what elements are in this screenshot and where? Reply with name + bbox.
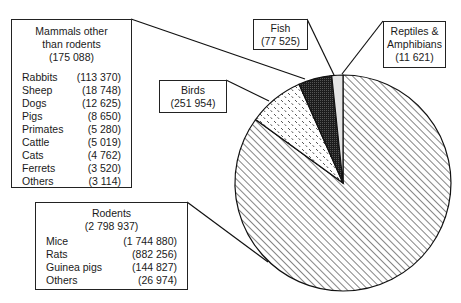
leader-line-fish — [307, 19, 334, 75]
fish-total: (77 525) — [254, 35, 307, 48]
label-box-fish: Fish (77 525) — [253, 19, 308, 50]
mammals-row: Pigs(8 650) — [22, 110, 121, 123]
mammals-row: Primates(5 280) — [22, 123, 121, 136]
mammals-row: Rabbits(113 370) — [22, 71, 121, 84]
rodents-row: Rats(882 256) — [46, 248, 177, 261]
rodents-title: Rodents — [46, 207, 177, 220]
rodents-total: (2 798 937) — [46, 220, 177, 233]
rodents-row: Mice(1 744 880) — [46, 235, 177, 248]
reptiles-title-line1: Reptiles & — [384, 25, 445, 38]
fish-title: Fish — [254, 22, 307, 35]
label-box-reptiles: Reptiles & Amphibians (11 621) — [383, 21, 446, 68]
reptiles-total: (11 621) — [384, 51, 445, 64]
rodents-row: Others(26 974) — [46, 274, 177, 287]
birds-title: Birds — [160, 84, 226, 97]
mammals-row: Dogs(12 625) — [22, 97, 121, 110]
mammals-title-line2: than rodents — [22, 38, 121, 51]
leader-line-birds — [226, 80, 269, 101]
mammals-row: Cats(4 762) — [22, 149, 121, 162]
mammals-title-line1: Mammals other — [22, 25, 121, 38]
label-box-mammals: Mammals other than rodents (175 088) Rab… — [11, 19, 132, 188]
mammals-row: Sheep(18 748) — [22, 84, 121, 97]
mammals-row: Cattle(5 019) — [22, 136, 121, 149]
label-box-birds: Birds (251 954) — [159, 80, 227, 113]
leader-line-reptiles — [342, 21, 383, 74]
reptiles-title-line2: Amphibians — [384, 38, 445, 51]
mammals-row: Others(3 114) — [22, 175, 121, 188]
label-box-rodents: Rodents (2 798 937) Mice(1 744 880) Rats… — [35, 202, 188, 290]
mammals-row: Ferrets(3 520) — [22, 162, 121, 175]
rodents-row: Guinea pigs(144 827) — [46, 261, 177, 274]
mammals-total: (175 088) — [22, 51, 121, 64]
birds-total: (251 954) — [160, 97, 226, 110]
